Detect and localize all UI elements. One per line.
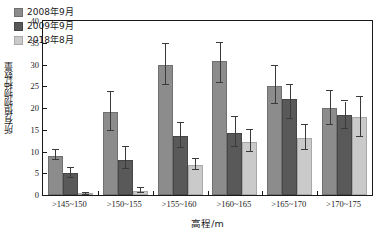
legend-item: 2018年8月 xyxy=(14,34,74,47)
error-bar-cap-lower xyxy=(301,149,308,150)
legend-label: 2018年8月 xyxy=(27,36,74,45)
error-bar-line xyxy=(330,91,331,126)
error-bar-line xyxy=(165,44,166,84)
error-bar-cap-lower xyxy=(326,124,333,125)
error-bar-cap-upper xyxy=(246,129,253,130)
error-bar-cap-upper xyxy=(271,65,278,66)
y-axis-tick-label: 20 xyxy=(17,104,39,113)
error-bar-line xyxy=(220,43,221,83)
error-bar-line xyxy=(250,130,251,151)
error-bar-cap-upper xyxy=(82,192,89,193)
y-axis-tick-label: 30 xyxy=(17,61,39,70)
error-bar-line xyxy=(235,117,236,147)
error-bar-cap-upper xyxy=(162,43,169,44)
y-axis-tick-label: 15 xyxy=(17,126,39,135)
bar-group xyxy=(317,21,372,195)
x-axis-tick-label: >150~155 xyxy=(97,200,152,209)
x-axis-tick-label: >170~175 xyxy=(316,200,371,209)
error-bar-line xyxy=(110,92,111,131)
bar-group xyxy=(98,21,153,195)
plot-inner: 0510152025303540 xyxy=(43,21,372,195)
error-bar-line xyxy=(345,102,346,129)
error-bar-line xyxy=(275,66,276,103)
error-bar-cap-lower xyxy=(162,84,169,85)
error-bar-cap-upper xyxy=(177,122,184,123)
error-bar-cap-upper xyxy=(52,149,59,150)
error-bar-cap-lower xyxy=(107,130,114,131)
error-bar-cap-lower xyxy=(341,128,348,129)
legend: 2008年9月2009年9月2018年8月 xyxy=(14,6,74,48)
y-axis-tick-label: 5 xyxy=(17,169,39,178)
error-bar-cap-lower xyxy=(286,118,293,119)
error-bar-cap-upper xyxy=(326,90,333,91)
error-bar-cap-lower xyxy=(216,82,223,83)
x-axis-tick-label: >160~165 xyxy=(207,200,262,209)
legend-item: 2008年9月 xyxy=(14,6,74,19)
error-bar-line xyxy=(125,147,126,169)
bar-group xyxy=(262,21,317,195)
bar-0 xyxy=(48,156,63,195)
error-bar-cap-upper xyxy=(356,96,363,97)
legend-item: 2009年9月 xyxy=(14,20,74,33)
error-bar-cap-upper xyxy=(341,100,348,101)
legend-swatch-icon xyxy=(14,36,23,45)
legend-swatch-icon xyxy=(14,8,23,17)
error-bar-line xyxy=(290,85,291,119)
error-bar-cap-lower xyxy=(67,177,74,178)
error-bar-cap-upper xyxy=(122,146,129,147)
bar-chart-figure: 所有植物物种数量 0510152025303540 2008年9月2009年9月… xyxy=(0,0,381,241)
error-bar-cap-lower xyxy=(52,159,59,160)
error-bar-cap-lower xyxy=(231,146,238,147)
error-bar-cap-upper xyxy=(192,158,199,159)
error-bar-cap-lower xyxy=(246,151,253,152)
error-bar-line xyxy=(360,97,361,137)
bar-group xyxy=(153,21,208,195)
error-bar-cap-upper xyxy=(216,42,223,43)
x-axis-tick-label: >145~150 xyxy=(42,200,97,209)
error-bar-line xyxy=(305,125,306,149)
x-axis-tick-label: >155~160 xyxy=(152,200,207,209)
error-bar-cap-upper xyxy=(67,167,74,168)
y-axis-tick-label: 0 xyxy=(17,191,39,200)
bar-group xyxy=(208,21,263,195)
error-bar-cap-lower xyxy=(356,136,363,137)
x-axis-tick-label: >165~170 xyxy=(261,200,316,209)
legend-label: 2009年9月 xyxy=(27,22,74,31)
x-axis-title: 高程/m xyxy=(42,219,373,229)
y-axis-tick-label: 25 xyxy=(17,82,39,91)
y-axis-tick-label: 10 xyxy=(17,148,39,157)
error-bar-cap-lower xyxy=(82,194,89,195)
plot-area: 0510152025303540 xyxy=(42,20,373,196)
error-bar-cap-lower xyxy=(177,147,184,148)
error-bar-line xyxy=(180,123,181,147)
legend-label: 2008年9月 xyxy=(27,8,74,17)
error-bar-cap-lower xyxy=(192,169,199,170)
error-bar-cap-upper xyxy=(231,116,238,117)
error-bar-cap-upper xyxy=(107,91,114,92)
error-bar-cap-lower xyxy=(271,103,278,104)
error-bar-cap-lower xyxy=(122,168,129,169)
error-bar-cap-upper xyxy=(286,84,293,85)
error-bar-cap-lower xyxy=(137,192,144,193)
error-bar-cap-upper xyxy=(137,187,144,188)
error-bar-cap-upper xyxy=(301,124,308,125)
legend-swatch-icon xyxy=(14,22,23,31)
